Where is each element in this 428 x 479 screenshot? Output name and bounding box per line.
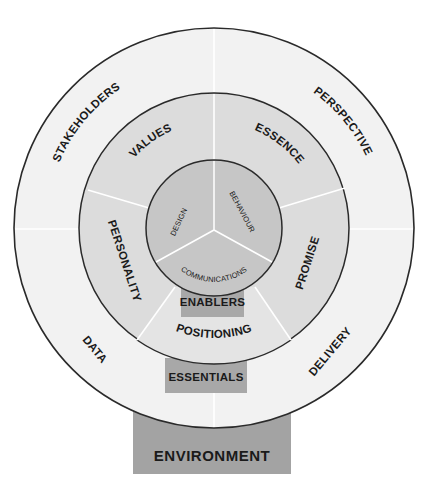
label-essentials: ESSENTIALS	[168, 371, 243, 383]
brand-wheel-diagram: STAKEHOLDERS PERSPECTIVE DATA DELIVERY V…	[0, 0, 428, 479]
label-enablers: ENABLERS	[180, 296, 246, 308]
label-environment: ENVIRONMENT	[154, 447, 270, 464]
